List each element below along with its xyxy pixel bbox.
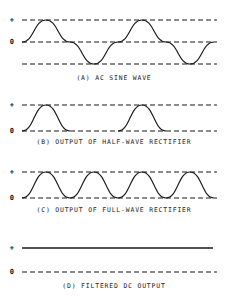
panel-c-label-positive: +: [4, 169, 14, 176]
panel-c-label-zero: 0: [4, 195, 14, 202]
panel-a-label-zero: 0: [4, 39, 14, 46]
panel-d-svg: [0, 232, 228, 287]
panel-a: + 0 (A) AC SINE WAVE: [0, 0, 228, 88]
panel-a-label-positive: +: [4, 17, 14, 24]
panel-c-fullwave-waveform: [22, 172, 214, 198]
rectifier-waveform-figure: + 0 (A) AC SINE WAVE + 0 (B) OUTPUT OF H…: [0, 0, 228, 301]
panel-d-label-positive: +: [4, 245, 14, 252]
panel-b-hump-2: [118, 105, 166, 131]
panel-d-plot: + 0: [0, 232, 228, 287]
panel-a-caption: (A) AC SINE WAVE: [0, 74, 228, 82]
panel-b-label-zero: 0: [4, 128, 14, 135]
panel-d: + 0 (D) FILTERED DC OUTPUT: [0, 232, 228, 287]
panel-c-caption: (C) OUTPUT OF FULL-WAVE RECTIFIER: [0, 206, 228, 214]
panel-b-hump-1: [22, 105, 70, 131]
panel-d-label-zero: 0: [4, 269, 14, 276]
panel-b: + 0 (B) OUTPUT OF HALF-WAVE RECTIFIER: [0, 93, 228, 153]
panel-b-label-positive: +: [4, 102, 14, 109]
panel-c: + 0 (C) OUTPUT OF FULL-WAVE RECTIFIER: [0, 161, 228, 221]
panel-d-caption: (D) FILTERED DC OUTPUT: [0, 282, 228, 290]
panel-b-caption: (B) OUTPUT OF HALF-WAVE RECTIFIER: [0, 138, 228, 146]
